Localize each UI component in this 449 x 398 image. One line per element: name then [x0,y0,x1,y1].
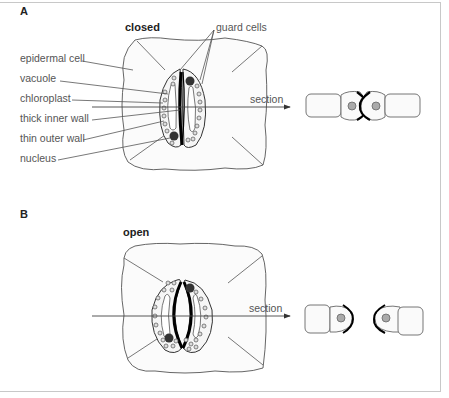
label-section-b: section [249,302,282,314]
stomata-diagram: A closed guard cells epiderm [0,0,449,398]
open-title: open [123,226,150,238]
label-chloroplast: chloroplast [20,92,71,104]
label-section-a: section [250,93,283,105]
cross-section-closed [306,91,420,120]
label-guard-cells: guard cells [216,21,267,33]
label-thick-inner-wall: thick inner wall [20,112,89,124]
label-epidermal-cell: epidermal cell [20,52,85,64]
guard-cells-closed [160,69,206,148]
panel-b-letter: B [20,208,28,220]
label-thin-outer-wall: thin outer wall [20,132,85,144]
label-nucleus: nucleus [20,152,56,164]
closed-title: closed [125,21,160,33]
cross-section-open [305,305,423,335]
panel-a-letter: A [20,5,28,17]
label-vacuole: vacuole [20,72,56,84]
